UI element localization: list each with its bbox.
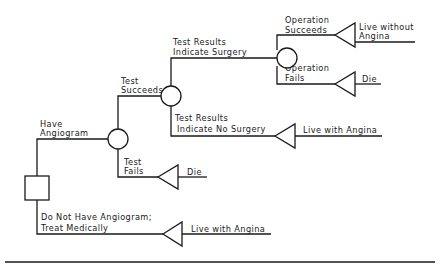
outcome-label: Live with Angina [303,125,377,135]
branch-test-succeeds: Test Succeeds [118,76,163,129]
terminal-node-live-without-angina [335,23,355,47]
outcome-label: Die [362,74,377,84]
branch-label: Indicate Surgery [173,47,247,57]
branch-no-angiogram: Do Not Have Angiogram; Treat Medically [37,200,163,234]
chance-node-operation [277,48,297,68]
branch-label: Test Results [172,37,226,47]
branch-label: Fails [285,73,305,83]
decision-tree-diagram: Have Angiogram Do Not Have Angiogram; Tr… [0,0,440,267]
outcome-label: Angina [359,31,390,41]
branch-label: Operation [285,15,329,25]
branch-label: Angiogram [40,128,88,138]
branch-label: Succeeds [121,85,163,95]
branch-have-angiogram: Have Angiogram [37,119,108,176]
outcome-label: Die [187,167,202,177]
terminal-node-die-test [158,165,178,189]
chance-node-test-result [161,86,181,106]
decision-node-square [25,176,49,200]
outcome-label: Live with Angina [191,224,265,234]
branch-label: Treat Medically [40,223,108,233]
terminal-node-die-operation [335,72,355,96]
terminal-node-live-with-angina-no-surgery [275,124,295,148]
branch-label: Indicate No Surgery [177,124,266,134]
branch-label: Test Results [174,113,228,123]
chance-node-angiogram [108,129,128,149]
terminal-node-live-with-angina-medical [163,222,182,246]
branch-label: Succeeds [285,25,327,35]
branch-indicate-surgery: Test Results Indicate Surgery [171,37,277,86]
branch-label: Do Not Have Angiogram; [41,212,152,222]
branch-label: Fails [124,166,144,176]
